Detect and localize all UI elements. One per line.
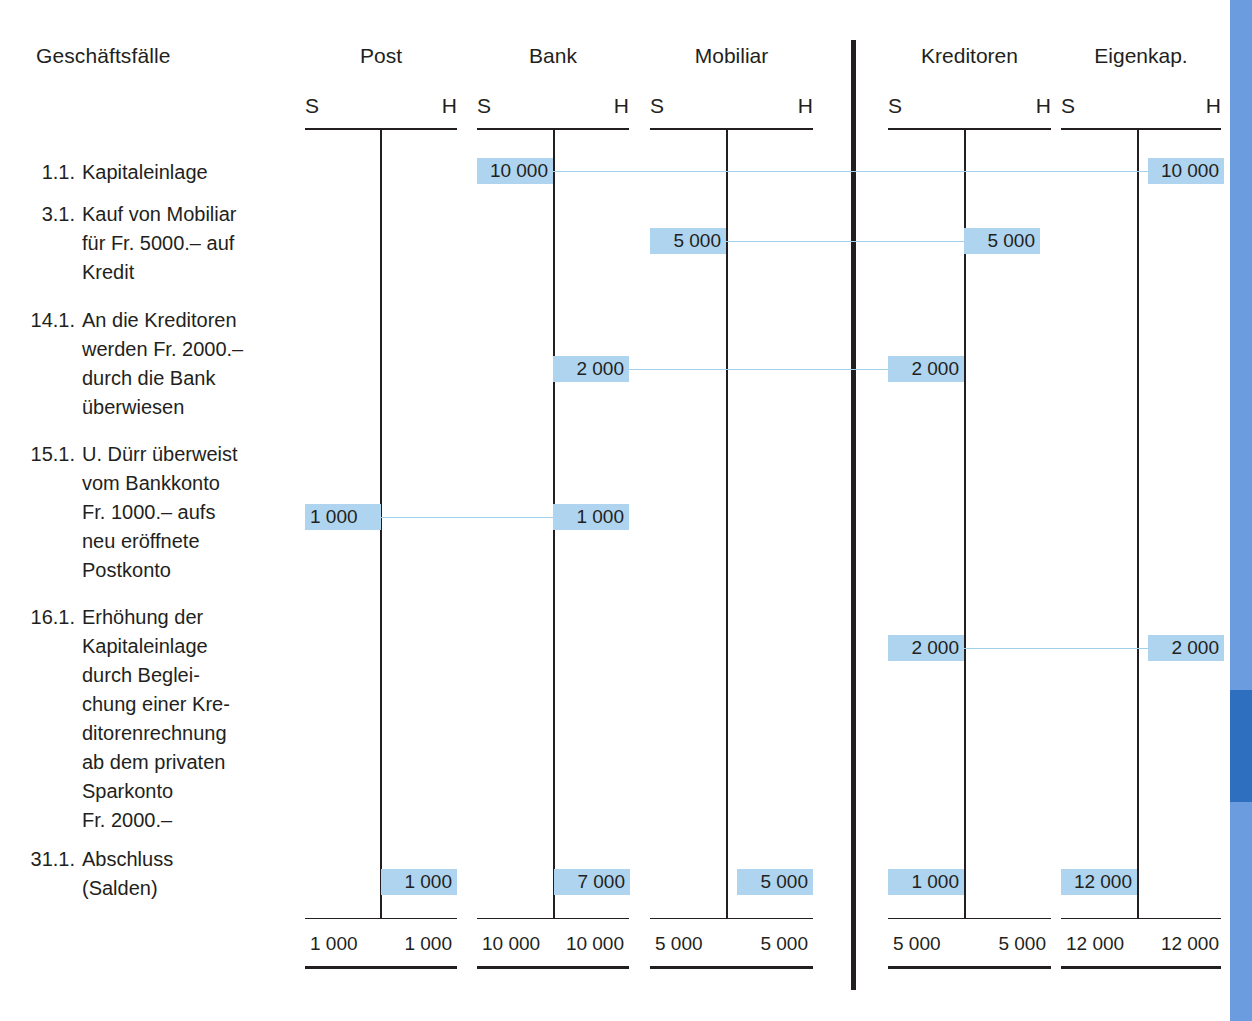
- t-rule-eigenkapital: [1061, 128, 1221, 130]
- total-mobiliar-debit: 5 000: [650, 931, 726, 957]
- amount-bank-credit: 2 000: [553, 356, 629, 382]
- account-header-mobiliar: Mobiliar: [650, 44, 813, 68]
- entry-row: 15.1. U. Dürr überweist vom Bankkonto Fr…: [82, 440, 238, 585]
- connector-line-15-1: [380, 517, 557, 518]
- amount-bank-debit: 10 000: [477, 158, 553, 184]
- amount-kreditoren-debit: 2 000: [888, 635, 964, 661]
- total-bank-debit: 10 000: [477, 931, 553, 957]
- entry-date: 31.1.: [31, 845, 75, 874]
- debit-header-mobiliar: S: [650, 94, 664, 118]
- amount-mobiliar-debit: 5 000: [650, 228, 726, 254]
- entry-row: 31.1. Abschluss (Salden): [82, 845, 173, 903]
- balance-mobiliar-credit: 5 000: [737, 869, 813, 895]
- connector-line-14-1: [629, 369, 888, 370]
- total-rule-top-bank: [477, 918, 629, 919]
- credit-header-kreditoren: H: [979, 94, 1051, 118]
- account-header-post: Post: [305, 44, 457, 68]
- entry-description: Erhöhung der Kapitaleinlage durch Beglei…: [82, 603, 230, 835]
- connector-line-3-1: [726, 241, 976, 242]
- credit-header-bank: H: [557, 94, 629, 118]
- entry-row: 3.1. Kauf von Mobiliar für Fr. 5000.– au…: [82, 200, 237, 287]
- amount-bank-credit: 1 000: [553, 504, 629, 530]
- entry-row: 1.1. Kapitaleinlage: [82, 158, 208, 187]
- account-header-eigenkapital: Eigenkap.: [1061, 44, 1221, 68]
- asset-liability-separator: [851, 40, 856, 990]
- amount-post-debit: 1 000: [305, 504, 381, 530]
- entry-date: 15.1.: [31, 440, 75, 469]
- t-rule-kreditoren: [888, 128, 1051, 130]
- total-rule-top-eigenkapital: [1061, 918, 1221, 919]
- debit-header-bank: S: [477, 94, 491, 118]
- account-sheet: Geschäftsfälle Post Bank Mobiliar Kredit…: [0, 0, 1252, 1021]
- entry-description: An die Kreditoren werden Fr. 2000.– durc…: [82, 306, 243, 422]
- total-eigenkapital-credit: 12 000: [1148, 931, 1224, 957]
- balance-kreditoren-debit: 1 000: [888, 869, 964, 895]
- account-header-bank: Bank: [477, 44, 629, 68]
- credit-header-eigenkapital: H: [1149, 94, 1221, 118]
- debit-header-post: S: [305, 94, 319, 118]
- amount-eigenkapital-credit: 10 000: [1148, 158, 1224, 184]
- entry-description: Kauf von Mobiliar für Fr. 5000.– auf Kre…: [82, 200, 237, 287]
- total-post-debit: 1 000: [305, 931, 380, 957]
- total-bank-credit: 10 000: [554, 931, 629, 957]
- entry-date: 1.1.: [42, 158, 75, 187]
- total-kreditoren-debit: 5 000: [888, 931, 964, 957]
- connector-line-1-1: [553, 171, 1148, 172]
- entry-row: 14.1. An die Kreditoren werden Fr. 2000.…: [82, 306, 243, 422]
- entry-row: 16.1. Erhöhung der Kapitaleinlage durch …: [82, 603, 230, 835]
- description-column-header: Geschäftsfälle: [36, 44, 170, 68]
- t-divider-mobiliar: [726, 128, 728, 918]
- total-rule-bottom-eigenkapital: [1061, 966, 1221, 969]
- total-rule-bottom-kreditoren: [888, 966, 1051, 969]
- debit-header-kreditoren: S: [888, 94, 902, 118]
- entry-date: 14.1.: [31, 306, 75, 335]
- t-divider-eigenkapital: [1137, 128, 1139, 918]
- balance-bank-credit: 7 000: [554, 869, 630, 895]
- account-header-kreditoren: Kreditoren: [888, 44, 1051, 68]
- entry-date: 16.1.: [31, 603, 75, 632]
- balance-post-credit: 1 000: [381, 869, 457, 895]
- total-rule-top-mobiliar: [650, 918, 813, 919]
- entry-date: 3.1.: [42, 200, 75, 229]
- entry-description: Kapitaleinlage: [82, 158, 208, 187]
- total-rule-bottom-mobiliar: [650, 966, 813, 969]
- total-kreditoren-credit: 5 000: [975, 931, 1051, 957]
- amount-eigenkapital-credit: 2 000: [1148, 635, 1224, 661]
- entry-description: Abschluss (Salden): [82, 845, 173, 903]
- credit-header-mobiliar: H: [741, 94, 813, 118]
- page-edge-bar: [1230, 0, 1252, 1021]
- debit-header-eigenkapital: S: [1061, 94, 1075, 118]
- t-rule-mobiliar: [650, 128, 813, 130]
- connector-line-16-1: [964, 648, 1149, 649]
- entry-description: U. Dürr überweist vom Bankkonto Fr. 1000…: [82, 440, 238, 585]
- total-rule-top-kreditoren: [888, 918, 1051, 919]
- total-rule-bottom-bank: [477, 966, 629, 969]
- page-edge-bar-highlight: [1230, 690, 1252, 802]
- amount-kreditoren-credit: 5 000: [964, 228, 1040, 254]
- total-mobiliar-credit: 5 000: [737, 931, 813, 957]
- credit-header-post: H: [385, 94, 457, 118]
- total-rule-bottom-post: [305, 966, 457, 969]
- total-eigenkapital-debit: 12 000: [1061, 931, 1137, 957]
- total-rule-top-post: [305, 918, 457, 919]
- amount-kreditoren-debit: 2 000: [888, 356, 964, 382]
- balance-eigenkapital-debit: 12 000: [1061, 869, 1137, 895]
- total-post-credit: 1 000: [381, 931, 457, 957]
